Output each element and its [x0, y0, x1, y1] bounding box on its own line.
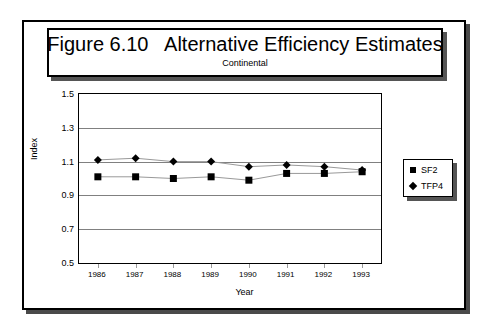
- x-axis-title: Year: [0, 287, 489, 297]
- diamond-marker: [132, 154, 140, 162]
- y-axis-tick-label: 1.1: [48, 157, 74, 167]
- x-axis-tick-label: 1987: [115, 270, 155, 280]
- page-title: Figure 6.10 Alternative Efficiency Estim…: [47, 31, 442, 57]
- diamond-marker: [283, 161, 291, 169]
- x-axis-tick-label: 1991: [266, 270, 306, 280]
- y-axis-tick-label: 0.7: [48, 224, 74, 234]
- chart-legend: SF2TFP4: [403, 159, 453, 197]
- y-axis-tick-label: 1.5: [48, 89, 74, 99]
- x-axis-tick: [211, 264, 212, 268]
- x-axis-tick: [249, 264, 250, 268]
- square-marker: [94, 173, 101, 180]
- x-axis-tick: [136, 264, 137, 268]
- x-axis-tick: [287, 264, 288, 268]
- x-axis-tick-label: 1990: [228, 270, 268, 280]
- square-marker: [283, 170, 290, 177]
- diamond-marker: [245, 163, 253, 171]
- y-axis-tick-label: 0.9: [48, 190, 74, 200]
- legend-item-tfp4[interactable]: TFP4: [410, 181, 452, 191]
- x-axis-tick-label: 1986: [77, 270, 117, 280]
- figure-subtitle: Continental: [222, 57, 268, 69]
- legend-item-label: TFP4: [421, 181, 443, 191]
- legend-item-sf2[interactable]: SF2: [410, 165, 452, 175]
- x-axis-tick-labels: 19861987198819891990199119921993: [78, 270, 382, 282]
- series-layer: [79, 94, 381, 263]
- diamond-marker: [207, 158, 215, 166]
- x-axis-tick-label: 1989: [190, 270, 230, 280]
- diamond-marker: [320, 163, 328, 171]
- x-axis-tick-label: 1992: [303, 270, 343, 280]
- y-axis-tick-labels: 0.50.70.91.11.31.5: [48, 86, 74, 271]
- diamond-marker: [409, 182, 417, 190]
- x-axis-tick-label: 1993: [341, 270, 381, 280]
- square-marker: [132, 173, 139, 180]
- diamond-marker: [94, 156, 102, 164]
- plot-area: [78, 93, 382, 264]
- x-axis-tick: [362, 264, 363, 268]
- square-marker: [321, 170, 328, 177]
- figure-root: Figure 6.10 Alternative Efficiency Estim…: [0, 0, 489, 329]
- x-axis-tick: [173, 264, 174, 268]
- y-axis-tick-label: 0.5: [48, 258, 74, 268]
- legend-item-label: SF2: [421, 165, 438, 175]
- x-axis-tick: [324, 264, 325, 268]
- x-axis-tick-label: 1988: [152, 270, 192, 280]
- square-marker: [208, 173, 215, 180]
- square-marker: [170, 175, 177, 182]
- y-axis-tick-label: 1.3: [48, 123, 74, 133]
- square-marker: [410, 167, 416, 173]
- y-axis-title: Index: [29, 138, 39, 160]
- x-axis-tick: [98, 264, 99, 268]
- square-marker: [245, 177, 252, 184]
- title-box: Figure 6.10 Alternative Efficiency Estim…: [47, 28, 443, 77]
- diamond-marker: [169, 158, 177, 166]
